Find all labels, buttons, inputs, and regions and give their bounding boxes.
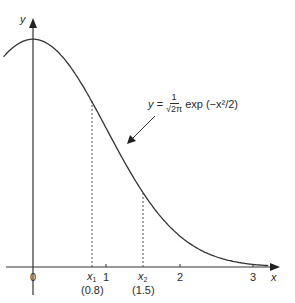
x-axis-arrow-icon: [270, 263, 280, 271]
x-axis-label: x: [271, 272, 277, 283]
equation-fraction: 1 √2π: [166, 93, 182, 114]
tick-label-0: 0: [30, 272, 36, 283]
tick-label-3: 3: [250, 272, 256, 283]
annotation-arrow: [131, 116, 155, 140]
x2-label: x2: [138, 271, 147, 285]
x1-value: (0.8): [81, 285, 104, 296]
y-axis-arrow-icon: [29, 18, 37, 28]
y-axis-label: y: [20, 14, 26, 25]
chart-canvas: [0, 0, 295, 303]
normal-curve: [4, 39, 269, 265]
x2-value: (1.5): [132, 285, 155, 296]
tick-label-1: 1: [103, 272, 109, 283]
x1-label: x1: [87, 271, 96, 285]
tick-label-2: 2: [177, 272, 183, 283]
equation-label: y = 1 √2π exp (−x²/2): [148, 93, 238, 114]
